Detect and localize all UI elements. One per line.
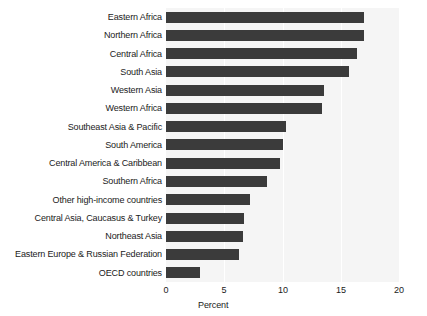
bar-row <box>166 99 399 117</box>
bar-row <box>166 209 399 227</box>
bars-layer <box>166 8 399 282</box>
bar <box>166 194 250 205</box>
bar-row <box>166 81 399 99</box>
bar-row <box>166 227 399 245</box>
category-label: Central America & Caribbean <box>10 154 162 172</box>
bar-row <box>166 172 399 190</box>
bar-row <box>166 8 399 26</box>
bar <box>166 121 286 132</box>
category-label: Other high-income countries <box>10 191 162 209</box>
category-label: Central Asia, Caucasus & Turkey <box>10 209 162 227</box>
bar <box>166 48 357 59</box>
bar <box>166 30 364 41</box>
category-labels: Eastern AfricaNorthern AfricaCentral Afr… <box>0 8 162 282</box>
category-label: Eastern Europe & Russian Federation <box>10 245 162 263</box>
bar <box>166 139 283 150</box>
bar <box>166 85 324 96</box>
x-tick-label: 0 <box>163 284 168 295</box>
bar <box>166 176 267 187</box>
bar <box>166 267 200 278</box>
bar <box>166 213 244 224</box>
x-tick-label: 5 <box>222 284 227 295</box>
x-tick-label: 20 <box>394 284 404 295</box>
bar-row <box>166 136 399 154</box>
bar <box>166 12 364 23</box>
bar <box>166 158 280 169</box>
category-label: OECD countries <box>10 264 162 282</box>
x-tick-label: 10 <box>277 284 287 295</box>
bar-row <box>166 45 399 63</box>
category-label: Southeast Asia & Pacific <box>10 118 162 136</box>
bar-chart: Eastern AfricaNorthern AfricaCentral Afr… <box>0 0 427 316</box>
bar-row <box>166 191 399 209</box>
category-label: Western Asia <box>10 81 162 99</box>
bar-row <box>166 154 399 172</box>
bar-row <box>166 118 399 136</box>
bar-row <box>166 63 399 81</box>
category-label: South Asia <box>10 63 162 81</box>
x-tick-label: 15 <box>336 284 346 295</box>
bar <box>166 249 239 260</box>
bar <box>166 103 322 114</box>
x-axis: Percent 05101520 <box>0 282 427 316</box>
category-label: Central Africa <box>10 45 162 63</box>
category-label: Eastern Africa <box>10 8 162 26</box>
bar-row <box>166 264 399 282</box>
category-label: Southern Africa <box>10 172 162 190</box>
x-axis-title-text: Percent <box>198 299 228 310</box>
bar <box>166 231 243 242</box>
category-label: Western Africa <box>10 99 162 117</box>
bar-row <box>166 26 399 44</box>
category-label: Northeast Asia <box>10 227 162 245</box>
category-label: Northern Africa <box>10 26 162 44</box>
bar <box>166 66 349 77</box>
x-axis-title: Percent <box>0 299 427 310</box>
bar-row <box>166 245 399 263</box>
category-label: South America <box>10 136 162 154</box>
